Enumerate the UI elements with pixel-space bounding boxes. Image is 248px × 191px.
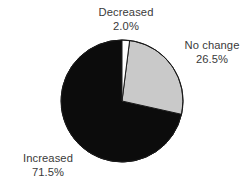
pie-label-no-change-value: 26.5% xyxy=(178,53,246,66)
pie-label-no-change-name: No change xyxy=(178,39,246,52)
pie-label-decreased: Decreased 2.0% xyxy=(0,6,248,32)
pie-label-increased: Increased 71.5% xyxy=(14,152,82,178)
pie-label-decreased-name: Decreased xyxy=(4,6,248,19)
pie-slices xyxy=(61,40,183,162)
pie-label-decreased-value: 2.0% xyxy=(4,20,248,33)
pie-slice-no-change[interactable] xyxy=(122,40,183,114)
pie-label-increased-name: Increased xyxy=(14,152,82,165)
pie-chart-figure: Decreased 2.0% No change 26.5% Increased… xyxy=(0,0,248,191)
pie-label-no-change: No change 26.5% xyxy=(178,39,246,65)
pie-label-increased-value: 71.5% xyxy=(14,166,82,179)
